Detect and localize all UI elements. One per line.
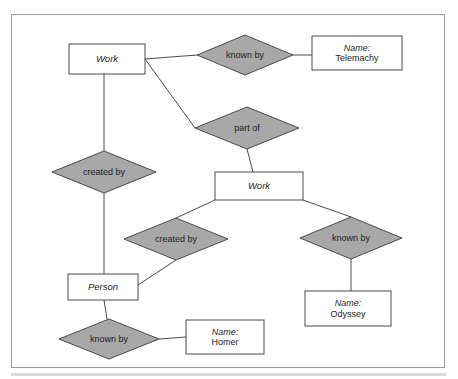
attribute-box-name-odyssey[interactable]: [305, 291, 391, 326]
er-diagram-canvas: [0, 0, 458, 379]
attribute-box-name-homer[interactable]: [186, 320, 264, 354]
edge-created-by-middle-to-person: [138, 260, 176, 285]
relationship-diamond-known-by-top[interactable]: [197, 35, 293, 75]
entity-box-work-middle[interactable]: [215, 172, 303, 200]
relationship-diamond-known-by-bottom[interactable]: [59, 319, 159, 359]
entity-box-work-top[interactable]: [69, 44, 145, 74]
edge-work-top-to-part-of: [145, 59, 195, 128]
relationship-diamond-created-by-left[interactable]: [52, 151, 156, 193]
relationship-diamond-known-by-right[interactable]: [300, 217, 402, 259]
diagram-page: Workknown byName:Telemachypart ofcreated…: [0, 0, 458, 379]
edge-work-middle-to-known-by-right: [303, 200, 351, 217]
attribute-box-name-telemachy[interactable]: [312, 36, 402, 70]
relationship-diamond-created-by-middle[interactable]: [124, 218, 228, 260]
edge-known-by-bottom-to-name-homer: [159, 337, 186, 339]
edge-part-of-to-work-middle: [247, 149, 253, 172]
entity-box-person[interactable]: [68, 274, 138, 300]
edge-person-to-known-by-bottom: [104, 300, 107, 319]
edge-work-top-to-known-by-top: [145, 55, 197, 59]
relationship-diamond-part-of[interactable]: [195, 107, 299, 149]
edge-work-middle-to-created-by-middle: [176, 200, 215, 218]
